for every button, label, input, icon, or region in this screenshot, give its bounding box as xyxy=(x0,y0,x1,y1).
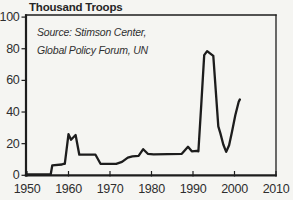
y-axis-tick-label: 40 xyxy=(6,105,20,119)
x-axis-tick-label: 1960 xyxy=(55,182,82,196)
data-line xyxy=(27,51,240,174)
line-chart-svg: 0204060801001950196019701980199020002010 xyxy=(0,0,293,200)
x-axis-tick-label: 1970 xyxy=(97,182,124,196)
x-axis-tick-label: 2000 xyxy=(221,182,248,196)
y-axis-tick-label: 100 xyxy=(0,10,20,24)
y-axis-tick-label: 80 xyxy=(6,42,20,56)
y-axis-tick-label: 60 xyxy=(6,73,20,87)
y-axis-tick-label: 0 xyxy=(13,168,20,182)
x-axis-tick-label: 2010 xyxy=(263,182,290,196)
x-axis-tick-label: 1980 xyxy=(138,182,165,196)
x-axis-tick-label: 1950 xyxy=(14,182,41,196)
y-axis-tick-label: 20 xyxy=(6,137,20,151)
x-axis-tick-label: 1990 xyxy=(180,182,207,196)
troops-line-chart: Thousand Troops Source: Stimson Center, … xyxy=(0,0,293,200)
